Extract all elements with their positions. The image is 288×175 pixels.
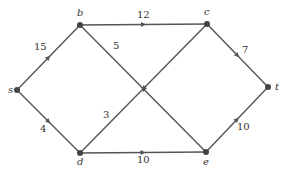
node-b: [77, 22, 83, 28]
node-label-b: b: [77, 7, 83, 18]
edges-layer: [17, 22, 268, 155]
node-c: [204, 21, 210, 27]
edge-weight-label: 7: [242, 44, 248, 55]
flow-network-graph: 154125371010sbctde: [0, 0, 288, 175]
node-s: [14, 87, 20, 93]
arrow-icon: [141, 22, 146, 27]
node-label-t: t: [275, 81, 280, 92]
edge-weight-label: 5: [113, 40, 119, 51]
edge-weight-label: 15: [34, 41, 47, 52]
edge-weight-label: 4: [40, 123, 46, 134]
node-label-c: c: [204, 6, 210, 17]
edge-weight-label: 12: [137, 9, 150, 20]
edge-weight-label: 10: [137, 154, 150, 165]
edge-weight-label: 3: [103, 109, 109, 120]
edge-weight-label: 10: [237, 121, 250, 132]
node-label-d: d: [77, 156, 83, 167]
node-label-e: e: [203, 156, 209, 167]
node-label-s: s: [8, 84, 13, 95]
node-t: [265, 84, 271, 90]
node-e: [203, 149, 209, 155]
